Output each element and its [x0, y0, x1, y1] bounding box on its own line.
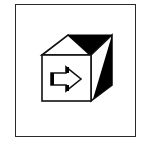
cube-with-arrow-icon: [0, 0, 146, 151]
icon-canvas: [0, 0, 146, 151]
arrow-shadow-tail: [51, 73, 54, 85]
arrow-shadow-head-top: [66, 67, 69, 73]
arrow-shadow-head-bottom: [66, 85, 69, 91]
